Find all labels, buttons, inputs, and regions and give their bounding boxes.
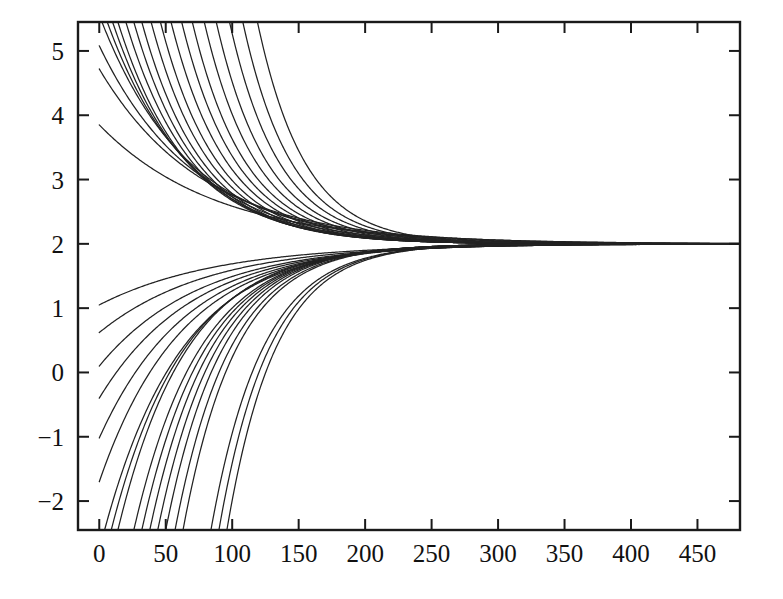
x-tick-label-300: 300 bbox=[479, 540, 517, 567]
x-tick-label-200: 200 bbox=[346, 540, 384, 567]
chart-figure: 050100150200250300350400450−2−1012345 bbox=[0, 0, 783, 599]
x-tick-label-350: 350 bbox=[546, 540, 584, 567]
x-tick-label-50: 50 bbox=[153, 540, 178, 567]
y-tick-label-3: 3 bbox=[52, 167, 65, 194]
x-tick-label-150: 150 bbox=[280, 540, 318, 567]
x-tick-label-0: 0 bbox=[93, 540, 106, 567]
y-tick-label-2: 2 bbox=[52, 231, 65, 258]
y-tick-label--1: −1 bbox=[37, 424, 64, 451]
solution-curves-plot: 050100150200250300350400450−2−1012345 bbox=[0, 0, 783, 599]
x-tick-label-400: 400 bbox=[612, 540, 650, 567]
y-tick-label-1: 1 bbox=[52, 295, 65, 322]
y-tick-label--2: −2 bbox=[37, 488, 64, 515]
x-tick-label-450: 450 bbox=[679, 540, 717, 567]
y-tick-label-5: 5 bbox=[52, 38, 65, 65]
x-tick-label-100: 100 bbox=[213, 540, 251, 567]
y-tick-label-0: 0 bbox=[52, 359, 65, 386]
plot-background bbox=[0, 0, 783, 599]
y-tick-label-4: 4 bbox=[52, 102, 65, 129]
x-tick-label-250: 250 bbox=[413, 540, 451, 567]
